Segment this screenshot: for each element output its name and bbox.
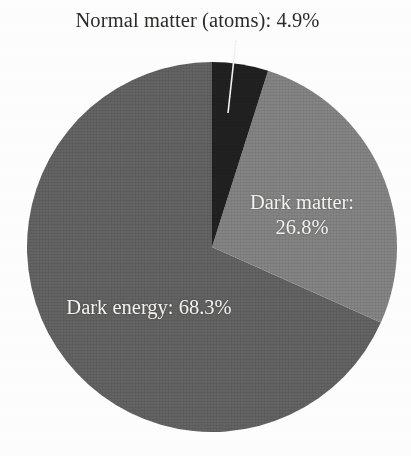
dark-matter-slice-label: Dark matter: 26.8% — [222, 190, 382, 240]
dark-matter-label-line2: 26.8% — [222, 215, 382, 240]
dark-energy-label-line1: Dark energy: 68.3% — [34, 295, 264, 320]
pie-chart-figure: Normal matter (atoms): 4.9% Dark matter:… — [0, 0, 411, 456]
dark-matter-label-line1: Dark matter: — [222, 190, 382, 215]
dark-energy-slice-label: Dark energy: 68.3% — [34, 295, 264, 320]
